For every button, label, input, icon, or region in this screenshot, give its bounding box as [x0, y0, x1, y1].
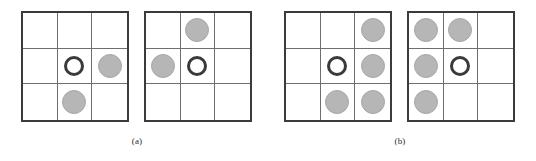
cell-r3c3[interactable]: [92, 84, 127, 120]
cell-r2c3[interactable]: [355, 49, 390, 85]
cell-r2c2[interactable]: [321, 49, 356, 85]
filled-disc-r3c2: [325, 90, 349, 114]
cell-r1c3[interactable]: [92, 13, 127, 49]
cell-r1c3[interactable]: [355, 13, 390, 49]
cell-r1c2[interactable]: [58, 13, 93, 49]
cell-r3c1[interactable]: [409, 84, 444, 120]
cell-r1c2[interactable]: [444, 13, 479, 49]
cell-r3c1[interactable]: [286, 84, 321, 120]
open-ring-disc-r2c2: [64, 56, 84, 76]
filled-disc-r2c3: [361, 54, 385, 78]
board-grid-4: [407, 11, 515, 122]
cell-r3c2[interactable]: [181, 84, 216, 120]
open-ring-disc-r2c2: [187, 56, 207, 76]
filled-disc-r1c1: [414, 18, 438, 42]
cell-r2c1[interactable]: [286, 49, 321, 85]
filled-disc-r2c1: [414, 54, 438, 78]
board-grid-2: [144, 11, 252, 122]
filled-disc-r3c1: [414, 90, 438, 114]
filled-disc-r1c2: [448, 18, 472, 42]
cell-r2c1[interactable]: [23, 49, 58, 85]
cell-r1c3[interactable]: [215, 13, 250, 49]
cell-r1c1[interactable]: [146, 13, 181, 49]
cell-r3c3[interactable]: [478, 84, 513, 120]
cell-r1c1[interactable]: [23, 13, 58, 49]
cell-r2c3[interactable]: [215, 49, 250, 85]
cell-r3c3[interactable]: [355, 84, 390, 120]
filled-disc-r2c1: [151, 54, 175, 78]
filled-disc-r2c3: [98, 54, 122, 78]
cell-r3c1[interactable]: [23, 84, 58, 120]
open-ring-disc-r2c2: [327, 56, 347, 76]
filled-disc-r1c2: [185, 18, 209, 42]
panel-caption-b: (b): [380, 136, 420, 146]
filled-disc-r3c3: [361, 90, 385, 114]
cell-r1c2[interactable]: [321, 13, 356, 49]
cell-r1c1[interactable]: [409, 13, 444, 49]
cell-r1c1[interactable]: [286, 13, 321, 49]
cell-r1c3[interactable]: [478, 13, 513, 49]
filled-disc-r3c2: [62, 90, 86, 114]
cell-r1c2[interactable]: [181, 13, 216, 49]
cell-r2c1[interactable]: [146, 49, 181, 85]
cell-r2c1[interactable]: [409, 49, 444, 85]
board-grid-3: [284, 11, 392, 122]
panel-caption-a: (a): [117, 136, 157, 146]
filled-disc-r1c3: [361, 18, 385, 42]
cell-r2c2[interactable]: [58, 49, 93, 85]
cell-r3c2[interactable]: [321, 84, 356, 120]
cell-r3c1[interactable]: [146, 84, 181, 120]
cell-r2c2[interactable]: [181, 49, 216, 85]
cell-r2c2[interactable]: [444, 49, 479, 85]
cell-r3c3[interactable]: [215, 84, 250, 120]
cell-r2c3[interactable]: [92, 49, 127, 85]
open-ring-disc-r2c2: [450, 56, 470, 76]
cell-r2c3[interactable]: [478, 49, 513, 85]
figure-root: (a) (b): [0, 0, 536, 161]
cell-r3c2[interactable]: [444, 84, 479, 120]
board-grid-1: [21, 11, 129, 122]
cell-r3c2[interactable]: [58, 84, 93, 120]
